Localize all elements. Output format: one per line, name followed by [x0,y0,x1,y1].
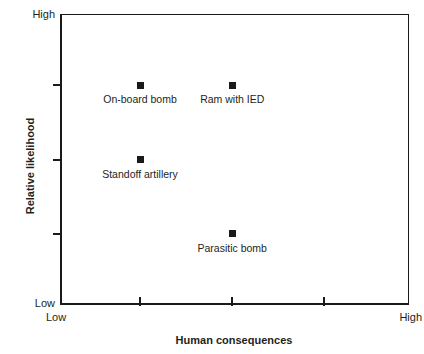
y-axis-tick [53,233,62,235]
data-point-marker [229,230,236,237]
data-point-label: Standoff artillery [50,168,230,180]
plot-area [60,14,408,305]
y-axis-tick [53,159,62,161]
data-point-marker [229,82,236,89]
x-axis-tick [323,297,325,306]
y-axis-low-label: Low [22,297,55,309]
data-point-label: Parasitic bomb [142,242,322,254]
data-point-marker [137,82,144,89]
x-axis-low-label: Low [46,311,86,323]
x-axis-high-label: High [378,311,422,323]
x-axis-title: Human consequences [60,334,408,346]
plot-frame-right [408,14,409,305]
x-axis-tick [139,297,141,306]
data-point-marker [137,156,144,163]
x-axis-tick [231,297,233,306]
y-axis-high-label: High [22,8,55,20]
scatter-chart: High Low Low High Relative likelihood Hu… [0,0,424,354]
plot-frame-top [60,14,409,15]
y-axis-title: Relative likelihood [24,86,36,246]
data-point-label: Ram with IED [142,93,322,105]
y-axis-tick [53,84,62,86]
